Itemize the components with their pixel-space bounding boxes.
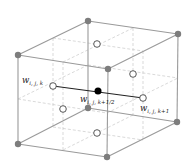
face-node-bottom bbox=[94, 130, 101, 137]
vertex-back-bottom-right bbox=[174, 119, 180, 125]
vertex-front-top-right bbox=[105, 66, 111, 72]
cube-figure: wi, j, k wi, j, k+1/2 wi, j, k+1 bbox=[0, 0, 194, 167]
center-node-w-i-j-k-half bbox=[95, 88, 102, 95]
face-node-w-i-j-k bbox=[50, 83, 57, 90]
vertex-back-top-left bbox=[85, 18, 91, 24]
label-w-i-j-k-half: wi, j, k+1/2 bbox=[80, 94, 115, 106]
label-w-i-j-k: wi, j, k bbox=[22, 75, 44, 87]
staggered-grid-diagram: wi, j, k wi, j, k+1/2 wi, j, k+1 bbox=[0, 0, 194, 167]
label-w-i-j-k1: wi, j, k+1 bbox=[140, 103, 169, 115]
vertex-front-bottom-right bbox=[104, 154, 110, 160]
vertex-back-top-right bbox=[175, 31, 181, 37]
face-node-front-lower bbox=[60, 106, 67, 113]
face-node-right-back bbox=[130, 71, 137, 78]
vertex-back-bottom-left bbox=[85, 105, 91, 111]
vertex-front-top-left bbox=[15, 52, 21, 58]
face-node-top bbox=[94, 41, 101, 48]
vertex-front-bottom-left bbox=[15, 141, 21, 147]
face-node-w-i-j-k1 bbox=[140, 95, 147, 102]
